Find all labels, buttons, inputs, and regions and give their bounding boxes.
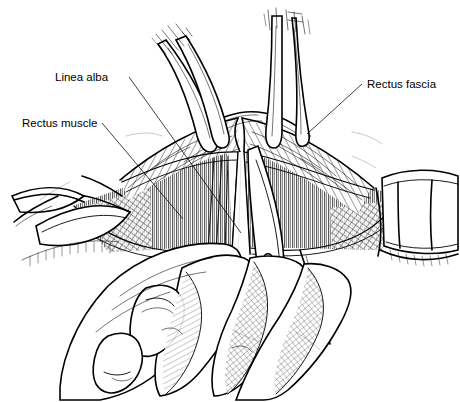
illustration-canvas: Linea alba Rectus muscle Rectus fascia [0, 0, 460, 402]
label-rectus-fascia: Rectus fascia [367, 78, 437, 90]
surgical-illustration-figure: Linea alba Rectus muscle Rectus fascia [0, 0, 460, 402]
label-linea-alba: Linea alba [55, 71, 109, 83]
label-rectus-muscle: Rectus muscle [22, 117, 97, 129]
